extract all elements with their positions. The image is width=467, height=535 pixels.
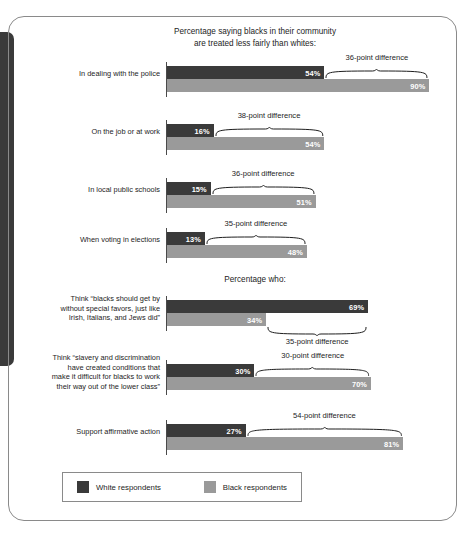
legend-label-white: White respondents — [96, 483, 161, 492]
row-category-label: In dealing with the police — [14, 69, 160, 79]
bar-value-black: 34% — [247, 315, 262, 324]
chart-page: Percentage saying blacks in their commun… — [0, 0, 467, 535]
row-category-label: Think “slavery and discrimination have c… — [14, 353, 160, 391]
bar-value-white: 69% — [349, 302, 364, 311]
section-heading-1: Percentage saying blacks in their commun… — [150, 26, 360, 49]
difference-label: 38-point difference — [209, 111, 329, 120]
bar-value-white: 13% — [186, 234, 201, 243]
row-category-label: On the job or at work — [14, 127, 160, 137]
bar-value-black: 81% — [384, 439, 399, 448]
bar-white-respondents: 15% — [167, 182, 211, 195]
bar-value-black: 70% — [352, 379, 367, 388]
difference-brace — [214, 127, 325, 136]
bar-black-respondents: 90% — [167, 79, 429, 92]
bar-black-respondents: 54% — [167, 137, 324, 150]
bar-white-respondents: 27% — [167, 424, 246, 437]
difference-brace — [254, 367, 371, 376]
difference-brace — [266, 327, 368, 336]
bar-value-black: 90% — [410, 81, 425, 90]
section-heading-2: Percentage who: — [150, 274, 360, 286]
difference-brace — [205, 235, 307, 244]
bar-value-black: 48% — [288, 247, 303, 256]
legend-item-black: Black respondents — [204, 481, 287, 493]
bar-black-respondents: 81% — [167, 437, 403, 450]
legend-swatch-white — [77, 481, 89, 493]
bar-white-respondents: 69% — [167, 300, 368, 313]
bar-black-respondents: 48% — [167, 245, 307, 258]
bar-value-black: 51% — [297, 197, 312, 206]
difference-brace — [246, 427, 403, 436]
chart-canvas: Percentage saying blacks in their commun… — [0, 0, 467, 535]
bar-white-respondents: 30% — [167, 364, 254, 377]
difference-brace — [211, 185, 316, 194]
row-category-label: In local public schools — [14, 185, 160, 195]
bar-value-white: 54% — [305, 68, 320, 77]
bar-black-respondents: 51% — [167, 195, 316, 208]
difference-label: 36-point difference — [317, 53, 437, 62]
bar-value-white: 27% — [227, 426, 242, 435]
bar-value-white: 30% — [235, 366, 250, 375]
bar-value-white: 16% — [195, 126, 210, 135]
difference-label: 35-point difference — [196, 219, 316, 228]
chart-legend: White respondents Black respondents — [62, 472, 302, 502]
difference-label: 36-point difference — [203, 169, 323, 178]
row-category-label: Support affirmative action — [14, 427, 160, 437]
bar-white-respondents: 16% — [167, 124, 214, 137]
legend-item-white: White respondents — [77, 481, 161, 493]
difference-brace — [324, 69, 429, 78]
bar-white-respondents: 54% — [167, 66, 324, 79]
difference-label: 54-point difference — [264, 411, 384, 420]
legend-swatch-black — [204, 481, 216, 493]
row-category-label: Think “blacks should get by without spec… — [14, 294, 160, 323]
bar-white-respondents: 13% — [167, 232, 205, 245]
difference-label: 35-point difference — [257, 337, 377, 346]
bar-value-white: 15% — [192, 184, 207, 193]
legend-label-black: Black respondents — [223, 483, 287, 492]
row-category-label: When voting in elections — [14, 235, 160, 245]
bar-black-respondents: 70% — [167, 377, 371, 390]
bar-black-respondents: 34% — [167, 313, 266, 326]
bar-value-black: 54% — [305, 139, 320, 148]
difference-label: 30-point difference — [253, 351, 373, 360]
